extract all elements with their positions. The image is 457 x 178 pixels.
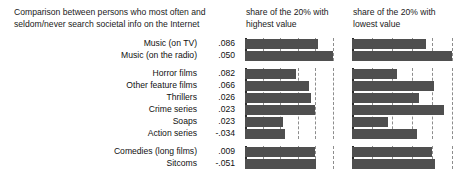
row-label: Soaps	[0, 116, 197, 127]
row-value: -.034	[199, 128, 235, 139]
row-value: .082	[199, 68, 235, 79]
bar-cell-panel-highest	[245, 116, 333, 127]
bar	[245, 105, 315, 115]
bar	[352, 39, 426, 49]
row-label: Music (on TV)	[0, 38, 197, 49]
bar	[352, 81, 434, 91]
chart-row: Comedies (long films).009	[0, 146, 452, 157]
bar	[245, 147, 315, 157]
bar-cell-panel-lowest	[352, 92, 452, 103]
bar	[245, 159, 316, 169]
bar-cell-panel-lowest	[352, 38, 452, 49]
bar	[245, 69, 296, 79]
bar	[352, 51, 452, 61]
chart-row: Other feature films.066	[0, 80, 452, 91]
bar	[352, 129, 417, 139]
bar-cell-panel-highest	[245, 158, 333, 169]
row-value: .086	[199, 38, 235, 49]
row-label: Horror films	[0, 68, 197, 79]
chart-row: Crime series.023	[0, 104, 452, 115]
bar-cell-panel-lowest	[352, 116, 452, 127]
row-value: .026	[199, 92, 235, 103]
bar-cell-panel-highest	[245, 104, 333, 115]
chart-group-films-and-series: Horror films.082Other feature films.066T…	[0, 68, 452, 139]
row-value: .050	[199, 50, 235, 61]
row-value: .066	[199, 80, 235, 91]
row-value: .023	[199, 104, 235, 115]
row-value: -.051	[199, 158, 235, 169]
panel-1-title: share of the 20% with highest value	[246, 6, 350, 30]
bar-cell-panel-lowest	[352, 158, 452, 169]
bar-cell-panel-lowest	[352, 50, 452, 61]
chart-row: Soaps.023	[0, 116, 452, 127]
bar-cell-panel-lowest	[352, 80, 452, 91]
bar	[245, 51, 333, 61]
bar	[245, 39, 318, 49]
bar	[352, 105, 444, 115]
chart-row: Action series-.034	[0, 128, 452, 139]
chart-group-music: Music (on TV).086Music (on the radio).05…	[0, 38, 452, 61]
gridline	[452, 38, 453, 61]
chart-title: Comparison between persons who most ofte…	[14, 6, 234, 30]
row-label: Thrillers	[0, 92, 197, 103]
bar-cell-panel-highest	[245, 68, 333, 79]
bar-cell-panel-highest	[245, 128, 333, 139]
row-label: Sitcoms	[0, 158, 197, 169]
row-value: .009	[199, 146, 235, 157]
bar	[245, 129, 285, 139]
chart-row: Thrillers.026	[0, 92, 452, 103]
bar	[245, 117, 283, 127]
gridline	[452, 68, 453, 139]
gridline	[452, 146, 453, 169]
bar-cell-panel-highest	[245, 146, 333, 157]
bar	[352, 69, 397, 79]
row-label: Crime series	[0, 104, 197, 115]
bar-cell-panel-highest	[245, 38, 333, 49]
chart-row: Music (on the radio).050	[0, 50, 452, 61]
row-label: Action series	[0, 128, 197, 139]
row-value: .023	[199, 116, 235, 127]
bar-cell-panel-highest	[245, 92, 333, 103]
row-label: Comedies (long films)	[0, 146, 197, 157]
bar-cell-panel-lowest	[352, 68, 452, 79]
chart-row: Music (on TV).086	[0, 38, 452, 49]
bar	[352, 117, 388, 127]
bar-cell-panel-lowest	[352, 104, 452, 115]
chart-row: Horror films.082	[0, 68, 452, 79]
bar	[352, 93, 419, 103]
bar	[352, 147, 432, 157]
panel-2-title: share of the 20% with lowest value	[353, 6, 457, 30]
bar	[352, 159, 435, 169]
row-label: Other feature films	[0, 80, 197, 91]
row-label: Music (on the radio)	[0, 50, 197, 61]
bar	[245, 81, 309, 91]
bar	[245, 93, 311, 103]
bar-cell-panel-highest	[245, 80, 333, 91]
bar-cell-panel-lowest	[352, 128, 452, 139]
chart-rows: Music (on TV).086Music (on the radio).05…	[0, 38, 452, 169]
bar-cell-panel-highest	[245, 50, 333, 61]
chart-group-comedy: Comedies (long films).009Sitcoms-.051	[0, 146, 452, 169]
bar-cell-panel-lowest	[352, 146, 452, 157]
chart-row: Sitcoms-.051	[0, 158, 452, 169]
